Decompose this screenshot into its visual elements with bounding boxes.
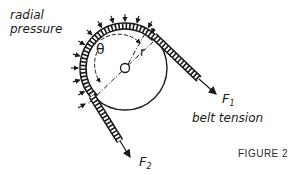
f2-sub: 2 bbox=[146, 162, 151, 171]
figure-caption: FIGURE 2 bbox=[238, 148, 288, 159]
theta-label: θ bbox=[96, 42, 105, 56]
f1-label: F1 bbox=[222, 92, 235, 108]
radius-label: r bbox=[140, 46, 145, 58]
belt-tension-label: belt tension bbox=[192, 112, 263, 124]
radial-pressure-label: radial pressure bbox=[10, 8, 62, 36]
theta-arc bbox=[101, 34, 140, 43]
f1-sub: 1 bbox=[229, 99, 234, 108]
f2-label: F2 bbox=[139, 155, 152, 171]
radial-label-line1: radial bbox=[10, 8, 62, 22]
radial-label-line2: pressure bbox=[10, 22, 62, 36]
f1-arrow bbox=[199, 79, 216, 94]
f2-arrow bbox=[120, 141, 130, 157]
